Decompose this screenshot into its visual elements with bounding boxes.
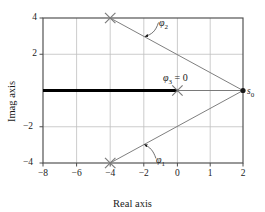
phi3-label: φ3 = 0 bbox=[163, 72, 188, 86]
xtick-label: 1 bbox=[200, 168, 220, 178]
xtick-label: −8 bbox=[33, 168, 53, 178]
pole-zero-root-locus-figure: −8 −6 −4 −2 0 1 2 4 2 −2 −4 Real axis Im… bbox=[0, 0, 265, 212]
ytick-label: 4 bbox=[19, 12, 37, 22]
xtick-label: −2 bbox=[134, 168, 154, 178]
ytick-label: −4 bbox=[15, 157, 33, 167]
plot-canvas bbox=[0, 0, 265, 212]
phi1-label: φ1 bbox=[156, 154, 165, 168]
phi2-subscript: 2 bbox=[165, 23, 169, 31]
xtick-label: 2 bbox=[233, 168, 253, 178]
test-point-s0-label: s0 bbox=[247, 86, 254, 99]
test-point-s0-marker bbox=[240, 88, 245, 93]
y-axis-title: Imag axis bbox=[6, 69, 17, 135]
xtick-label: 0 bbox=[167, 168, 187, 178]
ytick-label: −2 bbox=[15, 121, 33, 131]
s0-subscript: 0 bbox=[251, 91, 255, 99]
phi3-equals-zero: = 0 bbox=[172, 72, 188, 83]
phi1-arc bbox=[145, 145, 157, 159]
phi2-arc bbox=[145, 23, 158, 37]
phi1-subscript: 1 bbox=[162, 160, 166, 168]
phi2-label: φ2 bbox=[159, 17, 168, 31]
xtick-label: −6 bbox=[67, 168, 87, 178]
x-axis-title: Real axis bbox=[0, 198, 265, 209]
xtick-label: −4 bbox=[100, 168, 120, 178]
ytick-label: 2 bbox=[19, 48, 37, 58]
